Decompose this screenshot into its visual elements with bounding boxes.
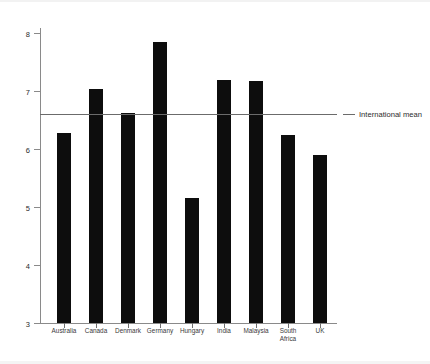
bar <box>121 113 135 323</box>
bar <box>281 135 295 323</box>
y-axis-tick-label: 5 <box>26 203 30 212</box>
bar <box>153 42 167 323</box>
y-axis-tick: 3 <box>34 323 41 324</box>
international-mean-line <box>40 114 337 115</box>
international-mean-label: International mean <box>359 110 422 119</box>
y-axis-tick-label: 8 <box>26 29 30 38</box>
y-axis-tick-label: 7 <box>26 87 30 96</box>
x-axis-category-label: UK <box>299 327 341 335</box>
scan-edge-top <box>0 0 430 2</box>
bar-chart: 8 7 6 5 4 3 Australia Canada Denmark Ger… <box>0 0 430 364</box>
plot-area <box>40 33 337 323</box>
bar <box>217 80 231 323</box>
bar <box>89 89 103 323</box>
bar <box>249 81 263 323</box>
bar <box>313 155 327 323</box>
y-axis-tick-label: 3 <box>26 319 30 328</box>
y-axis-tick-label: 6 <box>26 145 30 154</box>
bar <box>57 133 71 323</box>
bar <box>185 198 199 323</box>
international-mean-legend-dash <box>343 114 355 115</box>
y-axis-tick-label: 4 <box>26 261 30 270</box>
x-axis-line <box>40 323 337 324</box>
